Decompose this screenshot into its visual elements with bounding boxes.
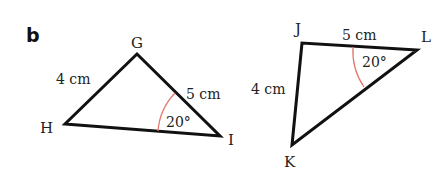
triangle-jkl: J K L 4 cm 5 cm 20°	[251, 20, 431, 171]
triangle-ghi: G H I 4 cm 5 cm 20°	[40, 34, 234, 149]
part-label: b	[26, 24, 40, 46]
side-label-gi: 5 cm	[186, 86, 220, 102]
vertex-label-j: J	[293, 20, 301, 38]
vertex-label-l: L	[421, 28, 431, 46]
vertex-label-k: K	[284, 153, 296, 171]
angle-label-l: 20°	[362, 54, 387, 70]
vertex-label-h: H	[40, 119, 53, 137]
angle-label-i: 20°	[166, 114, 191, 130]
side-label-jl: 5 cm	[342, 27, 376, 43]
vertex-label-g: G	[131, 34, 143, 52]
triangle-jkl-shape	[292, 43, 417, 145]
side-label-gh: 4 cm	[56, 71, 90, 87]
diagram-canvas: b G H I 4 cm 5 cm 20° J K L 4 cm 5 cm 20…	[0, 0, 438, 183]
vertex-label-i: I	[228, 131, 234, 149]
side-label-jk: 4 cm	[251, 81, 285, 97]
